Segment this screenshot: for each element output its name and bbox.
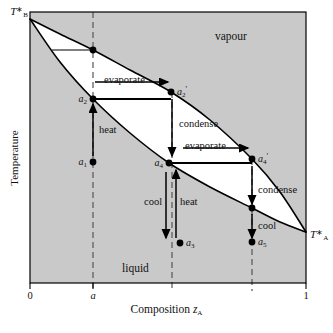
point-label-a4: a4	[155, 156, 164, 170]
data-point-a1[interactable]	[90, 159, 97, 166]
data-point-tie-top-node[interactable]	[90, 47, 97, 54]
point-label-a1: a1	[79, 155, 88, 169]
region-label-liquid: liquid	[122, 262, 149, 274]
data-point-cool-node-right[interactable]	[249, 205, 256, 212]
data-point-a5[interactable]	[249, 239, 256, 246]
data-point-a4p[interactable]	[249, 156, 256, 163]
x-tick-label-a: a	[83, 290, 103, 301]
region-label-vapour: vapour	[215, 30, 247, 42]
x-axis-label-text: Composition	[131, 303, 193, 315]
diagram-canvas	[0, 0, 333, 333]
point-label-a2: a2	[79, 92, 88, 106]
y-axis-label: Temperature	[8, 118, 20, 198]
x-tick-label-0: 0	[20, 290, 40, 301]
process-label-condense-1: condense	[179, 118, 218, 129]
process-label-cool-2: cool	[258, 220, 276, 231]
point-label-a2p: a2′	[177, 85, 187, 99]
data-point-a3[interactable]	[177, 240, 184, 247]
process-label-cool-1: cool	[144, 196, 162, 207]
point-label-a3: a3	[186, 236, 195, 250]
endpoint-label-TA: T∗A	[310, 228, 328, 242]
endpoint-label-TB: T∗B	[10, 5, 28, 19]
x-tick-label-1: 1	[296, 290, 316, 301]
point-label-a4p: a4′	[258, 152, 268, 166]
phase-diagram-figure: Temperature Composition zA T∗BT∗Avapourl…	[0, 0, 333, 333]
process-label-heat-2: heat	[180, 196, 198, 207]
x-axis-label-subscript: A	[197, 309, 202, 317]
process-label-evaporate-2: evaporate	[185, 140, 226, 151]
process-label-heat-1: heat	[99, 124, 117, 135]
data-point-a4[interactable]	[166, 160, 173, 167]
point-label-a5: a5	[258, 235, 267, 249]
process-label-evaporate-1: evaporate	[104, 74, 145, 85]
x-axis-label: Composition zA	[0, 303, 333, 317]
data-point-a2[interactable]	[90, 96, 97, 103]
process-label-condense-2: condense	[258, 184, 297, 195]
data-point-a2p[interactable]	[168, 89, 175, 96]
